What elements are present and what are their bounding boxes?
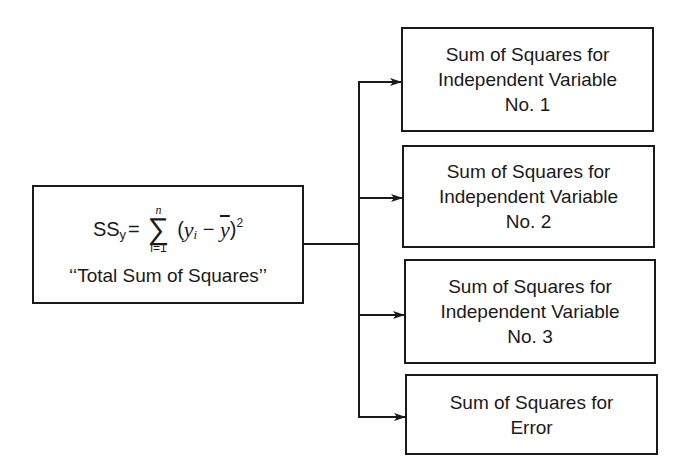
box-4-line-2: Error <box>510 415 552 440</box>
ss-independent-variable-1-box: Sum of Squares for Independent Variable … <box>401 27 654 132</box>
formula-equals: = <box>128 217 140 242</box>
formula-paren-close: ) <box>230 217 237 242</box>
formula-minus: − <box>197 217 220 242</box>
box-2-line-1: Sum of Squares for <box>447 159 611 184</box>
ss-error-box: Sum of Squares for Error <box>405 374 658 455</box>
sum-lower-limit: i=1 <box>148 242 169 254</box>
ss-independent-variable-2-box: Sum of Squares for Independent Variable … <box>402 145 655 248</box>
sum-symbol: ∑ <box>148 216 169 242</box>
total-sum-of-squares-box: SSy = n ∑ i=1 (yi − y)2 ‘‘Total Sum of S… <box>32 185 304 304</box>
summation-icon: n ∑ i=1 <box>148 204 169 254</box>
box-4-line-1: Sum of Squares for <box>450 390 614 415</box>
formula-y: y <box>184 217 194 242</box>
formula-lhs: SS <box>93 217 120 242</box>
box-3-line-2: Independent Variable <box>440 299 619 324</box>
formula-exponent: 2 <box>236 211 243 236</box>
box-2-line-2: Independent Variable <box>439 184 618 209</box>
total-ss-caption: ‘‘Total Sum of Squares’’ <box>69 263 267 288</box>
formula-paren-open: ( <box>177 217 184 242</box>
formula-lhs-subscript: y <box>120 222 127 247</box>
box-3-line-1: Sum of Squares for <box>448 274 612 299</box>
box-3-line-3: No. 3 <box>507 324 552 349</box>
formula-y-bar: y <box>220 217 230 242</box>
box-2-line-3: No. 2 <box>506 209 551 234</box>
box-1-line-3: No. 1 <box>505 92 550 117</box>
ss-independent-variable-3-box: Sum of Squares for Independent Variable … <box>404 259 656 364</box>
box-1-line-1: Sum of Squares for <box>446 42 610 67</box>
box-1-line-2: Independent Variable <box>438 67 617 92</box>
total-ss-formula: SSy = n ∑ i=1 (yi − y)2 <box>93 201 243 257</box>
